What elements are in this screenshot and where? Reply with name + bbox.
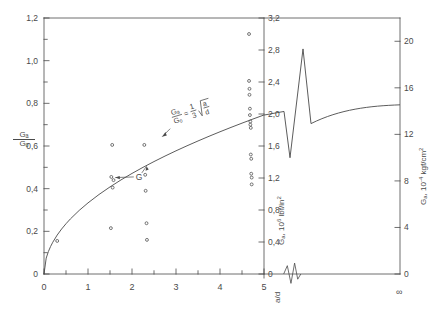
y-axis-left-label-denominator: Gₒ bbox=[13, 140, 35, 148]
y-right-tick-label: 8 bbox=[404, 176, 409, 186]
y-right-tick-label: 20 bbox=[404, 36, 414, 46]
y-right-tick-label: 12 bbox=[404, 129, 414, 139]
y-axis-left-label: Gₐ Gₒ bbox=[13, 131, 35, 149]
data-point-marker bbox=[110, 175, 113, 178]
data-point-marker bbox=[248, 93, 251, 96]
y-axis-right-label-units-exponent: 2 bbox=[418, 148, 424, 151]
data-point-marker bbox=[248, 33, 251, 36]
data-point-marker bbox=[250, 157, 253, 160]
data-point-marker bbox=[248, 114, 251, 117]
x-tick-label: 2 bbox=[129, 282, 134, 292]
x-tick-label: 3 bbox=[173, 282, 178, 292]
equation-coefficient-denominator: 3 bbox=[191, 110, 198, 120]
y-axis-mid-label-sub: a bbox=[280, 235, 286, 238]
g-annotation-label: G bbox=[136, 172, 143, 182]
y-mid-tick-label: 1,6 bbox=[268, 141, 280, 151]
x-axis-infinity-label: ∞ bbox=[396, 288, 402, 297]
y-left-tick-label: 0 bbox=[33, 269, 38, 279]
data-point-marker bbox=[111, 186, 114, 189]
theoretical-curve-path bbox=[44, 115, 264, 274]
g-annotation-arrowhead-left bbox=[115, 176, 120, 179]
y-mid-tick-label: 2,8 bbox=[268, 45, 280, 55]
data-point-marker bbox=[249, 153, 252, 156]
data-point-marker bbox=[248, 107, 251, 110]
data-point-marker bbox=[143, 143, 146, 146]
y-left-tick-label: 0,2 bbox=[26, 226, 38, 236]
x-tick-label: 5 bbox=[261, 282, 266, 292]
x-tick-label: 4 bbox=[217, 282, 222, 292]
y-mid-tick-label: 2,4 bbox=[268, 77, 280, 87]
y-axis-right-label-exponent: -4 bbox=[418, 177, 424, 182]
data-point-marker bbox=[249, 123, 252, 126]
y-left-tick-label: 0,4 bbox=[26, 184, 38, 194]
data-point-marker bbox=[112, 179, 115, 182]
figure-root: 00,20,40,60,81,01,200,40,81,21,62,02,42,… bbox=[0, 0, 430, 314]
y-mid-tick-label: 0 bbox=[268, 269, 273, 279]
y-right-tick-label: 0 bbox=[404, 269, 409, 279]
y-left-tick-label: 1,2 bbox=[26, 13, 38, 23]
y-axis-right-label: Ga, 10-4 kgf/cm2 bbox=[418, 148, 428, 205]
data-point-marker bbox=[144, 189, 147, 192]
curve-break-zigzag bbox=[284, 49, 311, 158]
data-point-marker bbox=[248, 87, 251, 90]
y-axis-mid-label-units-exponent: 2 bbox=[276, 196, 282, 199]
y-axis-mid-label-units: lbf/in bbox=[277, 200, 286, 219]
y-axis-mid-label-exponent: 6 bbox=[276, 219, 282, 222]
y-axis-right-label-units: kgf/cm bbox=[419, 151, 428, 177]
equation-radical-denominator: d bbox=[204, 108, 210, 116]
data-point-marker bbox=[250, 176, 253, 179]
data-point-marker bbox=[145, 222, 148, 225]
y-axis-mid-label: Ga, 106 lbf/in2 bbox=[276, 196, 286, 245]
y-axis-right-label-main: G bbox=[419, 199, 428, 205]
plot-svg: 00,20,40,60,81,01,200,40,81,21,62,02,42,… bbox=[0, 0, 430, 314]
y-axis-right-label-sub: a bbox=[422, 195, 428, 198]
y-axis-right-label-rest: , 10 bbox=[419, 182, 428, 195]
data-point-marker bbox=[144, 173, 147, 176]
curve-equation-annotation: GₐGₒ=13ad bbox=[169, 97, 213, 126]
data-point-marker bbox=[109, 227, 112, 230]
y-axis-mid-label-main: G bbox=[277, 239, 286, 245]
data-point-marker bbox=[250, 183, 253, 186]
equation-denominator: Gₒ bbox=[172, 115, 183, 126]
data-point-marker bbox=[249, 126, 252, 129]
data-point-marker bbox=[56, 239, 59, 242]
x-tick-label: 0 bbox=[41, 282, 46, 292]
data-point-marker bbox=[146, 238, 149, 241]
y-axis-mid-label-rest: , 10 bbox=[277, 222, 286, 235]
equation-radical-numerator: a bbox=[202, 100, 208, 108]
data-point-marker bbox=[248, 79, 251, 82]
x-tick-label: 1 bbox=[85, 282, 90, 292]
y-left-tick-label: 0,8 bbox=[26, 98, 38, 108]
y-right-tick-label: 16 bbox=[404, 83, 414, 93]
y-mid-tick-label: 3,2 bbox=[268, 13, 280, 23]
y-right-tick-label: 4 bbox=[404, 222, 409, 232]
data-point-marker bbox=[250, 172, 253, 175]
equation-equals-sign: = bbox=[183, 108, 190, 118]
asymptote-curve-path bbox=[311, 105, 400, 124]
y-mid-tick-label: 1,2 bbox=[268, 173, 280, 183]
x-axis-label: a/d bbox=[274, 292, 282, 303]
data-point-marker bbox=[111, 143, 114, 146]
x-axis-break-zigzag bbox=[284, 263, 301, 283]
y-left-tick-label: 1,0 bbox=[26, 56, 38, 66]
